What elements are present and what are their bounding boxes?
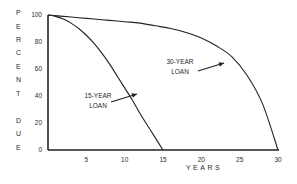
y-tick-label: 0 [16, 146, 42, 153]
arrow-15-year-head [132, 93, 137, 97]
x-tick-label: 25 [230, 156, 250, 163]
y-axis-label-letter: C [16, 49, 21, 56]
annotation-15-year-line1: 15-YEAR [76, 91, 120, 101]
x-tick-label: 10 [115, 156, 135, 163]
y-tick-label: 80 [16, 38, 42, 45]
y-tick-label: 60 [16, 65, 42, 72]
y-tick-label: 20 [16, 119, 42, 126]
arrow-30-year-head [219, 62, 224, 66]
x-axis-label: YEARS [164, 164, 244, 171]
annotation-30-year-line2: LOAN [158, 67, 202, 77]
annotation-30-year: 30-YEAR LOAN [158, 57, 202, 77]
annotation-15-year: 15-YEAR LOAN [76, 91, 120, 111]
amortization-chart: PERCENTDUE 100806040200 51015202530 YEAR… [0, 0, 297, 184]
annotation-15-year-line2: LOAN [76, 101, 120, 111]
curves [48, 15, 278, 150]
annotation-30-year-line1: 30-YEAR [158, 57, 202, 67]
x-tick-label: 30 [268, 156, 288, 163]
x-tick-label: 20 [191, 156, 211, 163]
plot-area [0, 0, 297, 184]
axes [48, 15, 279, 150]
30-year-loan-curve [48, 15, 278, 150]
x-tick-label: 15 [153, 156, 173, 163]
y-tick-label: 40 [16, 92, 42, 99]
y-axis-label-letter: E [16, 23, 21, 30]
x-tick-label: 5 [76, 156, 96, 163]
y-tick-label: 100 [16, 11, 42, 18]
y-axis-label-letter: U [16, 130, 21, 137]
15-year-loan-curve [48, 15, 163, 150]
y-axis-label-letter: N [16, 76, 21, 83]
